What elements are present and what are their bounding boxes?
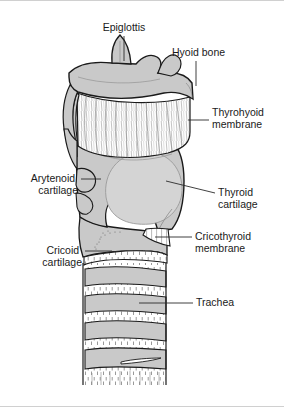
label-hyoid-bone: Hyoid bone [172,46,225,58]
label-line-2: membrane [195,242,245,254]
label-line-2: cartilage [38,184,78,196]
trachea-shape [83,263,166,385]
label-epiglottis: Epiglottis [103,21,146,33]
label-cricoid-cartilage: Cricoid cartilage [42,244,82,268]
label-line-2: cartilage [218,198,258,210]
thyrohyoid-membrane-shape [73,93,190,159]
trachea-ring [85,267,166,287]
label-line-1: Cricothyroid [195,230,251,242]
label-cricothyroid-membrane: Cricothyroid membrane [195,230,254,254]
label-line-1: Cricoid [46,244,79,256]
label-thyrohyoid-membrane: Thyrohyoid membrane [212,106,267,130]
label-line-2: membrane [212,118,262,130]
label-thyroid-cartilage: Thyroid cartilage [218,186,258,210]
label-line-1: Thyroid [218,186,253,198]
anatomy-figure: Epiglottis Hyoid bone Thyrohyoid membran… [0,0,284,407]
trachea-ring [85,321,166,341]
epiglottis-shape [112,35,131,64]
label-arytenoid-cartilage: Arytenoid cartilage [31,172,78,196]
label-trachea: Trachea [196,296,234,308]
label-line-1: Arytenoid [31,172,76,184]
larynx-trachea-illustration: Epiglottis Hyoid bone Thyrohyoid membran… [0,1,284,407]
label-line-1: Thyrohyoid [212,106,264,118]
label-line-2: cartilage [42,256,82,268]
trachea-ring [85,294,166,314]
